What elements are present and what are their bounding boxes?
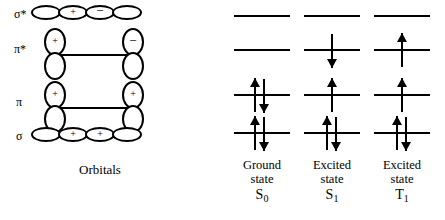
state-word: state bbox=[391, 172, 414, 186]
state-caption-excited-state-s1: Excited state S1 bbox=[292, 158, 372, 206]
state-name: Excited bbox=[383, 158, 421, 172]
state-caption-ground-state: Ground state S0 bbox=[222, 158, 302, 206]
state-column-ground-state: Ground state S0 bbox=[222, 0, 302, 220]
electron-arrow-down bbox=[258, 117, 269, 151]
dumbbell-pi-star-right: − bbox=[122, 28, 144, 80]
orbital-row-label-pi-star: π* bbox=[14, 43, 26, 55]
lobe-sign: + bbox=[130, 89, 136, 99]
lobe-pi-star-right-bottom bbox=[122, 52, 144, 80]
orbital-row-label-pi: π bbox=[16, 96, 22, 108]
dumbbell-pi-left: + bbox=[44, 81, 66, 133]
lobe-sign: − bbox=[96, 4, 103, 17]
lobe-sigma-3: + bbox=[85, 127, 115, 142]
orbital-pi-star-lobes: + − bbox=[44, 28, 154, 84]
lobe-sigma-star-2: + bbox=[58, 5, 88, 20]
lobe-sign: − bbox=[129, 34, 136, 47]
state-term: S1 bbox=[292, 188, 372, 206]
electron-configuration-panel: Ground state S0 Excited state S1 bbox=[200, 0, 445, 220]
state-word: state bbox=[251, 172, 274, 186]
level-line-pi-star bbox=[234, 49, 290, 51]
level-line-sigma-star bbox=[374, 15, 430, 17]
electron-arrow-down bbox=[326, 34, 337, 68]
lobe-sign: + bbox=[70, 7, 76, 17]
lobe-sigma-1 bbox=[31, 127, 61, 142]
orbital-sigma-star-lobes: + − bbox=[31, 5, 142, 20]
state-word: state bbox=[321, 172, 344, 186]
dumbbell-pi-right: + bbox=[122, 81, 144, 133]
lobe-sigma-star-4 bbox=[112, 5, 142, 20]
level-line-sigma-star bbox=[234, 15, 290, 17]
electron-arrow-down bbox=[330, 117, 341, 151]
electron-arrow-down bbox=[400, 117, 411, 151]
level-line-sigma-star bbox=[304, 15, 360, 17]
lobe-sign: + bbox=[97, 129, 103, 139]
lobe-sigma-2: + bbox=[58, 127, 88, 142]
lobe-sign: + bbox=[52, 36, 58, 46]
orbital-pictogram-panel: σ* + − π* + bbox=[0, 0, 200, 220]
lobe-sigma-star-3: − bbox=[85, 5, 115, 20]
orbital-row-label-sigma-star: σ* bbox=[14, 8, 26, 20]
state-name: Ground bbox=[243, 158, 281, 172]
orbital-row-label-sigma: σ bbox=[16, 130, 22, 142]
mo-diagram-figure: σ* + − π* + bbox=[0, 0, 445, 220]
lobe-sigma-4 bbox=[112, 127, 142, 142]
state-name: Excited bbox=[313, 158, 351, 172]
electron-arrow-up bbox=[396, 78, 407, 112]
electron-arrow-up bbox=[396, 33, 407, 67]
orbitals-caption: Orbitals bbox=[0, 162, 200, 178]
state-column-excited-state-s1: Excited state S1 bbox=[292, 0, 372, 220]
dumbbell-pi-star-left: + bbox=[44, 28, 66, 80]
orbital-sigma-lobes: + + bbox=[31, 127, 142, 142]
lobe-sigma-star-1 bbox=[31, 5, 61, 20]
lobe-pi-star-left-bottom bbox=[44, 52, 66, 80]
electron-arrow-up bbox=[326, 78, 337, 112]
lobe-sign: + bbox=[70, 129, 76, 139]
state-caption-excited-state-t1: Excited state T1 bbox=[362, 158, 442, 206]
electron-arrow-down bbox=[258, 79, 269, 113]
state-term: S0 bbox=[222, 188, 302, 206]
state-term: T1 bbox=[362, 188, 442, 206]
lobe-sign: + bbox=[52, 89, 58, 99]
state-column-excited-state-t1: Excited state T1 bbox=[362, 0, 442, 220]
